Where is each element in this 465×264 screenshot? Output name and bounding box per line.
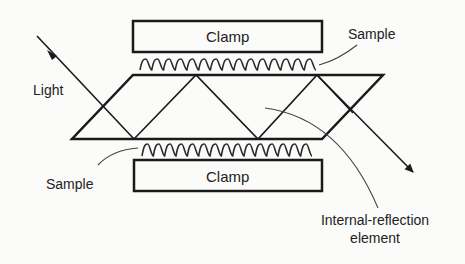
top-sample-wave: [140, 59, 316, 70]
light-label: Light: [33, 83, 63, 97]
exit-light-ray: [317, 75, 413, 172]
ire-label-line2: element: [305, 229, 445, 247]
ire-leader: [265, 108, 378, 208]
bottom-clamp-label: Clamp: [206, 169, 249, 184]
top-clamp-label: Clamp: [206, 29, 249, 44]
top-sample-label: Sample: [348, 27, 395, 41]
bottom-sample-wave: [142, 144, 312, 156]
bottom-sample-leader: [98, 148, 138, 165]
atr-diagram: Clamp Clamp Sample Sample Light Internal…: [0, 0, 465, 264]
top-sample-leader: [319, 45, 357, 65]
bottom-sample-label: Sample: [46, 177, 93, 191]
ire-label: Internal-reflection element: [305, 211, 445, 247]
ire-label-line1: Internal-reflection: [305, 211, 445, 229]
